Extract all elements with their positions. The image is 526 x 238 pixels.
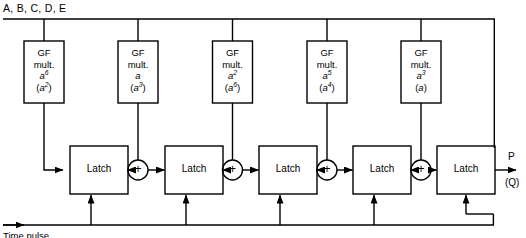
gf-mult-line2-1: mult.: [118, 59, 158, 71]
diagram-wiring: [0, 0, 526, 238]
gf-mult-text-1: GF mult. a (a3): [118, 47, 158, 93]
gf-mult-alt-0: (a2): [24, 82, 64, 94]
gf-mult-text-4: GF mult. a3 (a): [401, 47, 441, 93]
adder-symbol-1: +: [223, 163, 243, 175]
latch-label-4: Latch: [437, 164, 495, 174]
gf-mult-text-2: GF mult. a2 (a6): [213, 47, 253, 93]
output-label-secondary: (Q): [505, 178, 519, 188]
gf-mult-line1-3: GF: [307, 47, 347, 59]
time-pulse-label: Time pulse: [3, 231, 49, 238]
gf-mult-coef-4: a3: [401, 70, 441, 82]
gf-multiplier-latch-chain-diagram: A, B, C, D, E GF mult. a6 (a2) GF mult. …: [0, 0, 526, 238]
gf-mult-alt-4: (a): [401, 82, 441, 94]
gf-mult-text-3: GF mult. a5 (a4): [307, 47, 347, 93]
latch-label-3: Latch: [353, 164, 411, 174]
gf-mult-line1-0: GF: [24, 47, 64, 59]
input-bus-label: A, B, C, D, E: [3, 3, 66, 14]
gf-mult-alt-3: (a4): [307, 82, 347, 94]
latch-label-2: Latch: [259, 164, 317, 174]
adder-symbol-0: +: [128, 163, 148, 175]
output-label-primary: P: [508, 152, 515, 162]
latch-label-1: Latch: [165, 164, 223, 174]
gf-mult-line1-1: GF: [118, 47, 158, 59]
latch-label-0: Latch: [70, 164, 128, 174]
gf-mult-alt-1: (a3): [118, 82, 158, 94]
gf-out-path-0: [44, 103, 63, 170]
gf-mult-line1-2: GF: [213, 47, 253, 59]
gf-mult-alt-2: (a6): [213, 82, 253, 94]
adder-symbol-3: +: [411, 163, 431, 175]
adder-symbol-2: +: [317, 163, 337, 175]
gf-mult-line1-4: GF: [401, 47, 441, 59]
gf-mult-text-0: GF mult. a6 (a2): [24, 47, 64, 93]
